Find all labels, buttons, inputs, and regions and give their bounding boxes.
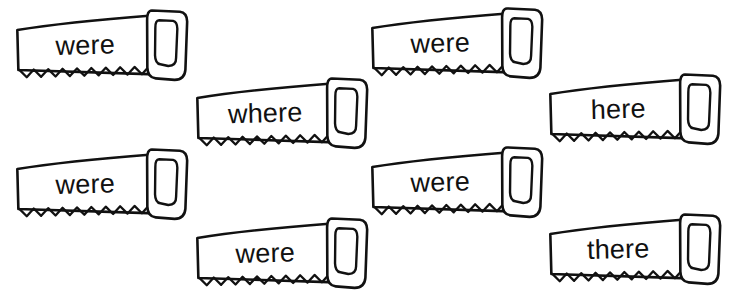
saw-word-text: here — [590, 93, 646, 124]
saw-word-text: where — [227, 97, 303, 129]
saw-word-text: there — [587, 233, 650, 265]
saw-illustration[interactable]: were — [15, 11, 206, 96]
saw-illustration[interactable]: were — [195, 219, 386, 302]
saw-illustration[interactable]: were — [15, 150, 206, 235]
saw-illustration[interactable]: here — [548, 75, 733, 160]
saw-word-text: were — [54, 29, 115, 61]
worksheet-canvas: werewerewhereherewerewerewerethere — [0, 0, 733, 302]
saw-word-text: were — [234, 237, 295, 269]
saw-illustration[interactable]: were — [370, 9, 561, 94]
saw-word-text: were — [409, 166, 470, 198]
saw-word-text: were — [54, 168, 115, 200]
saw-illustration[interactable]: were — [370, 148, 561, 233]
saw-illustration[interactable]: there — [548, 215, 733, 300]
saw-illustration[interactable]: where — [195, 79, 386, 164]
saw-word-text: were — [409, 27, 470, 59]
